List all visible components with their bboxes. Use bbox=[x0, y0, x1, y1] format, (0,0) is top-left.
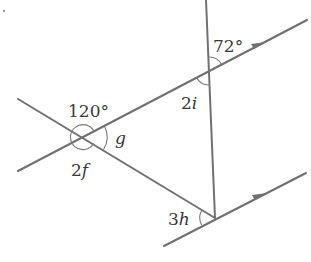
angle-arc-2i bbox=[197, 78, 210, 86]
label-2i-coefficient: 2 bbox=[181, 93, 192, 113]
label-g: g bbox=[115, 128, 126, 148]
label-2i-variable: i bbox=[192, 93, 197, 113]
angle-arc-72 bbox=[208, 57, 221, 65]
angle-arc-g bbox=[104, 126, 108, 150]
label-3h-variable: h bbox=[179, 209, 190, 229]
angle-diagram: 72° 120° g 2f 2i 3h bbox=[0, 0, 311, 262]
label-2f: 2f bbox=[71, 160, 91, 180]
label-120-degrees: 120° bbox=[68, 101, 109, 121]
label-3h: 3h bbox=[168, 209, 190, 229]
stray-mark bbox=[3, 10, 5, 12]
transversal-line bbox=[18, 99, 215, 218]
label-72-degrees: 72° bbox=[213, 36, 243, 56]
label-3h-coefficient: 3 bbox=[168, 209, 179, 229]
angle-arc-3h bbox=[200, 210, 202, 225]
label-2i: 2i bbox=[181, 93, 197, 113]
label-2f-coefficient: 2 bbox=[71, 160, 82, 180]
vertical-line bbox=[206, 0, 215, 218]
label-2f-variable: f bbox=[80, 160, 91, 180]
